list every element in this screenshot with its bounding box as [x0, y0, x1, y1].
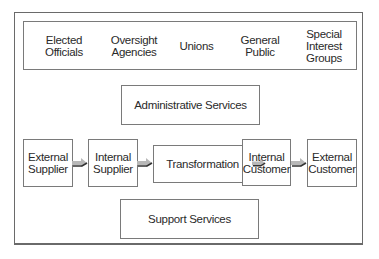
support-services-label: Support Services — [148, 213, 231, 225]
process-label: External — [308, 151, 355, 163]
process-label: Internal — [93, 151, 133, 163]
external-customer-box: ExternalCustomer — [307, 139, 357, 187]
process-label: Customer — [243, 163, 290, 175]
process-label: Transformation — [166, 158, 239, 170]
stakeholder-label: Agencies — [111, 46, 158, 58]
internal-supplier-box: InternalSupplier — [88, 139, 138, 187]
process-label: Customer — [308, 163, 355, 175]
stakeholder-oversight-agencies: OversightAgencies — [99, 22, 169, 69]
stakeholder-general-public: GeneralPublic — [230, 22, 290, 69]
stakeholder-label: Officials — [45, 46, 83, 58]
stakeholder-label: Interest — [306, 40, 342, 52]
process-label: Internal — [243, 151, 290, 163]
stakeholder-label: Groups — [306, 52, 342, 64]
stakeholder-elected-officials: ElectedOfficials — [34, 22, 94, 69]
process-label: Supplier — [28, 163, 68, 175]
administrative-services-box: Administrative Services — [121, 85, 260, 125]
stakeholder-label: General — [241, 34, 280, 46]
transformation-box: Transformation — [153, 145, 252, 183]
arrow-right-icon — [291, 157, 307, 171]
external-supplier-box: ExternalSupplier — [23, 139, 73, 187]
stakeholder-special-interest-groups: SpecialInterestGroups — [292, 22, 356, 69]
stakeholder-label: Unions — [180, 40, 214, 52]
process-label: External — [28, 151, 68, 163]
internal-customer-box: InternalCustomer — [242, 139, 291, 186]
stakeholder-label: Elected — [45, 34, 83, 46]
stakeholder-label: Special — [306, 28, 342, 40]
arrow-right-icon — [72, 157, 88, 171]
arrow-right-icon — [252, 157, 266, 171]
stakeholder-label: Public — [241, 46, 280, 58]
stakeholder-unions: Unions — [169, 22, 224, 69]
stakeholder-label: Oversight — [111, 34, 158, 46]
arrow-right-icon — [137, 157, 153, 171]
administrative-services-label: Administrative Services — [134, 99, 247, 111]
process-label: Supplier — [93, 163, 133, 175]
stakeholders-box: ElectedOfficials OversightAgencies Union… — [23, 21, 357, 70]
support-services-box: Support Services — [120, 199, 259, 239]
